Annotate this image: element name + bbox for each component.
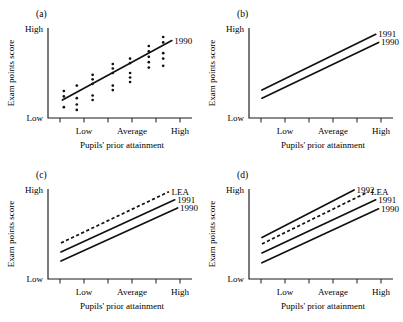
scatter-point xyxy=(147,55,150,58)
scatter-point xyxy=(111,67,114,70)
y-axis-low-label: Low xyxy=(228,113,245,123)
series-label-1990: 1990 xyxy=(180,203,199,213)
scatter-point xyxy=(147,61,150,64)
x-tick-label: Low xyxy=(277,126,294,136)
y-axis-low-label: Low xyxy=(27,113,44,123)
y-axis-low-label: Low xyxy=(27,274,44,284)
trend-line-lea xyxy=(61,192,169,243)
panel-letter: (c) xyxy=(36,170,47,181)
x-tick-label: Average xyxy=(318,126,348,136)
trend-line-1992 xyxy=(262,190,354,238)
scatter-point xyxy=(111,63,114,66)
scatter-point xyxy=(75,109,78,112)
series-label-1990: 1990 xyxy=(381,37,400,47)
trend-line-1991 xyxy=(262,34,376,90)
scatter-point xyxy=(129,81,132,84)
y-axis-title: Exam points score xyxy=(207,201,217,268)
trend-line-1990 xyxy=(262,42,379,98)
x-tick-label: High xyxy=(372,287,391,297)
scatter-point xyxy=(111,84,114,87)
scatter-point xyxy=(62,90,65,93)
x-tick-label: Low xyxy=(76,126,93,136)
x-tick-label: High xyxy=(171,126,190,136)
trend-line-1990 xyxy=(62,41,171,100)
scatter-point xyxy=(162,64,165,67)
x-tick-label: Average xyxy=(117,126,147,136)
scatter-point xyxy=(62,95,65,98)
x-tick-label: Low xyxy=(76,287,93,297)
x-tick-label: High xyxy=(372,126,391,136)
trend-line-lea xyxy=(262,192,369,244)
scatter-point xyxy=(162,41,165,44)
scatter-point xyxy=(147,45,150,48)
scatter-point xyxy=(129,72,132,75)
x-axis-title: Pupils' prior attainment xyxy=(80,140,165,150)
y-axis-title: Exam points score xyxy=(6,40,16,107)
scatter-point xyxy=(129,57,132,60)
y-axis-low-label: Low xyxy=(228,274,245,284)
trend-line-1991 xyxy=(61,200,175,252)
x-axis-title: Pupils' prior attainment xyxy=(281,140,366,150)
x-axis-title: Pupils' prior attainment xyxy=(281,301,366,311)
scatter-point xyxy=(75,97,78,100)
x-tick-label: Low xyxy=(277,287,294,297)
scatter-point xyxy=(162,36,165,39)
panel-plot: (c)LowAverageHighPupils' prior attainmen… xyxy=(0,161,201,322)
panel-plot: (b)LowAverageHighPupils' prior attainmen… xyxy=(201,0,402,161)
axis-spines xyxy=(249,28,393,118)
panel-c: (c)LowAverageHighPupils' prior attainmen… xyxy=(0,161,201,322)
series-label-1990: 1990 xyxy=(381,204,400,214)
scatter-point xyxy=(129,76,132,79)
figure-panel-grid: (a)LowAverageHighPupils' prior attainmen… xyxy=(0,0,403,322)
scatter-point xyxy=(91,78,94,81)
panel-letter: (b) xyxy=(237,9,248,20)
panel-plot: (d)LowAverageHighPupils' prior attainmen… xyxy=(201,161,402,322)
scatter-point xyxy=(147,66,150,69)
scatter-point xyxy=(62,106,65,109)
y-axis-high-label: High xyxy=(226,24,245,34)
series-label-1990: 1990 xyxy=(174,36,193,46)
scatter-point xyxy=(91,73,94,76)
x-axis-title: Pupils' prior attainment xyxy=(80,301,165,311)
panel-d: (d)LowAverageHighPupils' prior attainmen… xyxy=(201,161,402,322)
panel-b: (b)LowAverageHighPupils' prior attainmen… xyxy=(201,0,402,161)
y-axis-title: Exam points score xyxy=(6,201,16,268)
x-tick-label: Average xyxy=(318,287,348,297)
panel-letter: (d) xyxy=(237,170,248,181)
x-tick-label: Average xyxy=(117,287,147,297)
x-tick-label: High xyxy=(171,287,190,297)
scatter-point xyxy=(162,57,165,60)
panel-letter: (a) xyxy=(36,9,47,20)
y-axis-high-label: High xyxy=(226,185,245,195)
scatter-point xyxy=(111,89,114,92)
scatter-point xyxy=(75,103,78,106)
panel-a: (a)LowAverageHighPupils' prior attainmen… xyxy=(0,0,201,161)
y-axis-high-label: High xyxy=(25,185,44,195)
panel-plot: (a)LowAverageHighPupils' prior attainmen… xyxy=(0,0,201,161)
scatter-point xyxy=(91,94,94,97)
scatter-point xyxy=(75,84,78,87)
y-axis-title: Exam points score xyxy=(207,40,217,107)
y-axis-high-label: High xyxy=(25,24,44,34)
scatter-point xyxy=(91,99,94,102)
scatter-point xyxy=(162,52,165,55)
